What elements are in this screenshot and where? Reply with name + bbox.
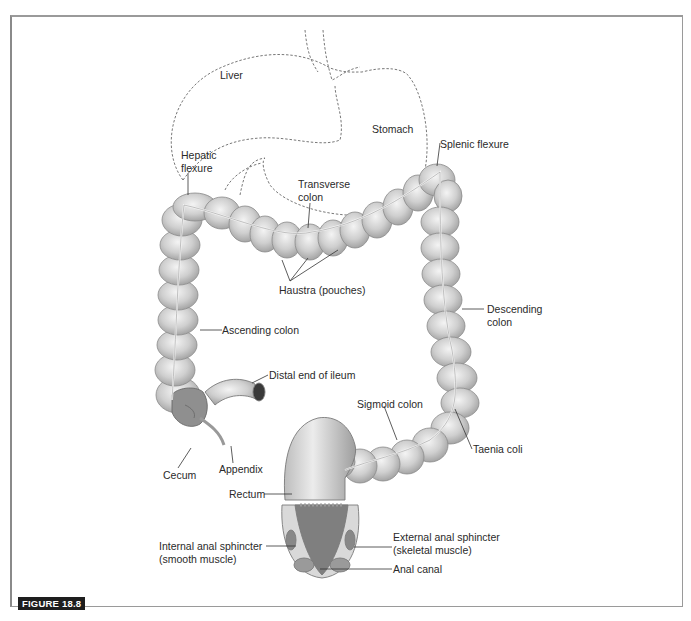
ileum (205, 379, 265, 405)
figure-number-badge: FIGURE 18.8 (18, 597, 85, 610)
label-distal-ileum: Distal end of ileum (269, 369, 355, 382)
label-taenia-coli: Taenia coli (473, 443, 523, 456)
label-sigmoid-colon: Sigmoid colon (357, 398, 423, 411)
label-internal-anal-sphincter: Internal anal sphincter (smooth muscle) (159, 540, 262, 565)
label-haustra: Haustra (pouches) (279, 284, 365, 297)
label-stomach: Stomach (372, 123, 413, 136)
rectum (282, 417, 359, 578)
label-cecum: Cecum (163, 469, 196, 482)
label-descending-colon: Descending colon (487, 303, 542, 328)
label-liver: Liver (220, 69, 243, 82)
label-appendix: Appendix (219, 463, 263, 476)
label-transverse-colon: Transverse colon (298, 178, 350, 203)
label-ascending-colon: Ascending colon (222, 324, 299, 337)
label-rectum: Rectum (229, 488, 265, 501)
label-external-anal-sphincter: External anal sphincter (skeletal muscle… (393, 531, 500, 556)
appendix (200, 418, 224, 445)
label-hepatic-flexure: Hepatic flexure (181, 149, 217, 174)
large-intestine-illustration (0, 0, 691, 621)
label-anal-canal: Anal canal (393, 563, 442, 576)
label-splenic-flexure: Splenic flexure (440, 138, 509, 151)
